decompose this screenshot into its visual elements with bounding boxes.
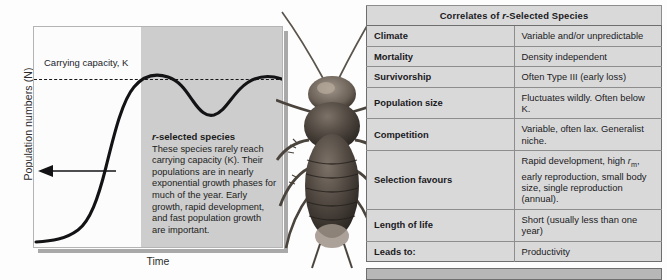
- correlates-table: Correlates of r-Selected Species Climate…: [366, 5, 662, 262]
- row-value-leads-to: Productivity: [514, 241, 662, 261]
- logistic-growth-chart: Population numbers (N) Carrying capacity…: [0, 0, 330, 280]
- table-row: Length of life Short (usually less than …: [367, 209, 662, 241]
- table-title-suffix: -Selected Species: [506, 10, 588, 21]
- row-value-mortality: Density independent: [514, 46, 662, 66]
- table-row: Selection favours Rapid development, hig…: [367, 151, 662, 210]
- row-label-selection-favours: Selection favours: [367, 151, 515, 210]
- secondary-table-panel: [366, 268, 662, 280]
- secondary-table-header: [366, 268, 662, 280]
- annotation-title: r-selected species: [152, 131, 277, 143]
- table-title-prefix: Correlates of: [440, 10, 503, 21]
- row-value-population-size: Fluctuates wildly. Often below K.: [514, 87, 662, 119]
- row-label-survivorship: Survivorship: [367, 67, 515, 87]
- selection-value-pre: Rapid development, high: [522, 155, 628, 166]
- row-label-leads-to: Leads to:: [367, 241, 515, 261]
- x-axis-label: Time: [33, 255, 283, 267]
- plot-shadow-right: [284, 31, 288, 253]
- correlates-table-panel: Correlates of r-Selected Species Climate…: [366, 5, 662, 262]
- table-title-row: Correlates of r-Selected Species: [367, 6, 662, 26]
- row-label-competition: Competition: [367, 119, 515, 151]
- figure-root: Population numbers (N) Carrying capacity…: [0, 0, 667, 280]
- plot-shadow-bottom: [38, 249, 288, 253]
- table-row: Survivorship Often Type III (early loss): [367, 67, 662, 87]
- row-value-survivorship: Often Type III (early loss): [514, 67, 662, 87]
- row-label-mortality: Mortality: [367, 46, 515, 66]
- table-row: Competition Variable, often lax. General…: [367, 119, 662, 151]
- table-row: Mortality Density independent: [367, 46, 662, 66]
- row-value-climate: Variable and/or unpredictable: [514, 26, 662, 46]
- annotation-title-rest: -selected species: [156, 131, 235, 142]
- row-value-selection-favours: Rapid development, high rm, early reprod…: [514, 151, 662, 210]
- row-value-length-of-life: Short (usually less than one year): [514, 209, 662, 241]
- row-value-competition: Variable, often lax. Generalist niche.: [514, 119, 662, 151]
- plot-area: Carrying capacity, K r-selected species …: [33, 26, 283, 248]
- row-label-length-of-life: Length of life: [367, 209, 515, 241]
- table-row: Leads to: Productivity: [367, 241, 662, 261]
- annotation-callout: r-selected species These species rarely …: [152, 131, 277, 236]
- table-row: Climate Variable and/or unpredictable: [367, 26, 662, 46]
- table-row: Population size Fluctuates wildly. Often…: [367, 87, 662, 119]
- annotation-body: These species rarely reach carrying capa…: [152, 144, 277, 237]
- curve-pointer-arrow-icon: [36, 160, 118, 182]
- row-label-population-size: Population size: [367, 87, 515, 119]
- table-title: Correlates of r-Selected Species: [367, 6, 662, 26]
- row-label-climate: Climate: [367, 26, 515, 46]
- table-body: Correlates of r-Selected Species Climate…: [367, 6, 662, 262]
